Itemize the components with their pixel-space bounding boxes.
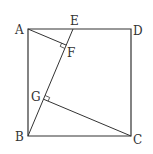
square-abcd — [28, 29, 131, 136]
label-g: G — [31, 90, 41, 104]
label-b: B — [15, 130, 24, 144]
label-d: D — [133, 24, 143, 38]
label-a: A — [14, 23, 24, 37]
label-f: F — [67, 46, 75, 60]
segment-af — [28, 29, 66, 45]
label-e: E — [70, 14, 79, 28]
label-c: C — [133, 133, 142, 147]
segment-cg — [44, 99, 132, 136]
geometry-diagram: A E D F G B C — [0, 0, 153, 154]
